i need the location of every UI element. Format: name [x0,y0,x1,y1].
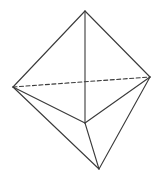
edge-top-left [13,11,85,87]
edge-right-bottom [99,77,150,169]
edge-left-right [13,77,150,87]
polyhedron-diagram [0,0,163,182]
edge-right-middle [85,77,150,123]
edge-left-middle [13,87,85,123]
edge-top-right [85,11,150,77]
edges-group [13,11,150,169]
